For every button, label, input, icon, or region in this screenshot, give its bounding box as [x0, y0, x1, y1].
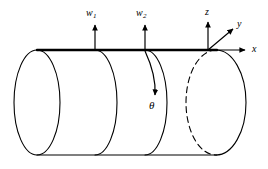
figure-background — [0, 0, 268, 169]
axis-label-y: y — [237, 19, 241, 29]
cylindrical-shell-diagram — [0, 0, 268, 169]
angle-label-theta: θ — [149, 100, 154, 111]
axis-label-x: x — [252, 44, 256, 54]
load-subscript-w2: 2 — [143, 12, 147, 20]
load-subscript-w1: 1 — [93, 12, 97, 20]
load-label-w2: w2 — [136, 8, 146, 20]
axis-label-z: z — [205, 7, 209, 17]
load-label-w1: w1 — [86, 8, 96, 20]
figure-root: w1 w2 z y x θ — [0, 0, 268, 169]
load-symbol-w2: w — [136, 7, 143, 18]
load-symbol-w1: w — [86, 7, 93, 18]
